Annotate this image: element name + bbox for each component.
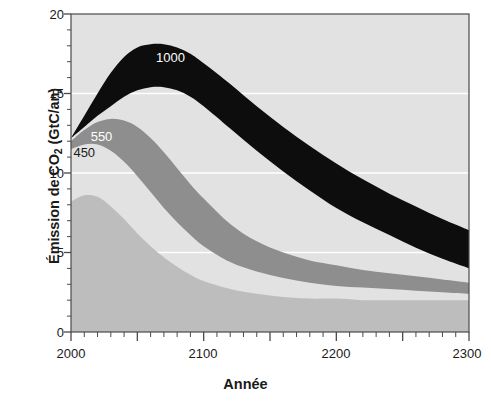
band-label-1000: 1000 [156, 50, 185, 65]
band-label-450: 450 [73, 145, 95, 160]
co2-emission-chart-figure: Émission de CO2 (GtC/an) 20 15 10 5 0 20… [0, 0, 491, 404]
band-label-550: 550 [91, 129, 113, 144]
plot-canvas: 1000550450 [0, 0, 491, 404]
